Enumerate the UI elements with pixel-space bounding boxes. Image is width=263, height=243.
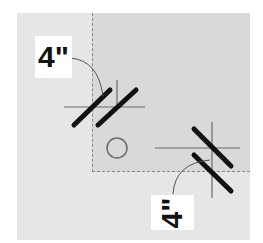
- leader-line: [70, 58, 103, 96]
- dimension-text: 4": [155, 197, 189, 228]
- circle-marker: [107, 138, 127, 158]
- dimension-text: 4": [38, 40, 69, 74]
- dimension-label-top: 4": [35, 36, 72, 78]
- dimension-label-bottom: 4": [151, 195, 194, 230]
